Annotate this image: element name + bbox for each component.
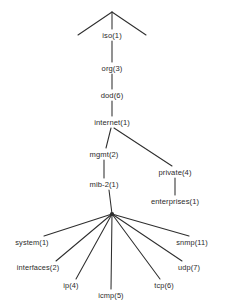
edge-mib2-to-snmp xyxy=(112,214,189,236)
node-label-internet: internet(1) xyxy=(93,118,131,127)
mib-tree-diagram: iso(1) org(3) dod(6) internet(1) mgmt(2)… xyxy=(0,0,225,308)
node-label-org: org(3) xyxy=(101,64,124,73)
top-edge-artifact xyxy=(26,0,37,5)
node-label-system: system(1) xyxy=(14,238,49,247)
fan-hub-dot xyxy=(110,212,114,216)
edge-mib2-to-fan-hub xyxy=(109,190,112,214)
node-label-private: private(4) xyxy=(157,168,192,177)
node-label-enterprises: enterprises(1) xyxy=(150,197,200,206)
node-label-ip: ip(4) xyxy=(62,281,79,290)
edge-mib2-to-tcp xyxy=(112,214,160,279)
node-label-tcp: tcp(6) xyxy=(153,281,175,290)
node-label-icmp: icmp(5) xyxy=(97,291,124,300)
node-label-snmp: snmp(11) xyxy=(175,238,208,247)
node-label-mgmt: mgmt(2) xyxy=(89,150,120,159)
edge-mib2-to-interfaces xyxy=(56,214,112,261)
node-label-interfaces: interfaces(2) xyxy=(16,263,60,272)
node-label-iso: iso(1) xyxy=(101,31,123,40)
node-label-udp: udp(7) xyxy=(177,263,201,272)
edge-mib2-to-icmp xyxy=(111,214,112,289)
edge-internet-to-private xyxy=(114,128,172,166)
edge-mib2-to-udp xyxy=(112,214,182,261)
edge-internet-to-mgmt xyxy=(106,128,111,148)
node-label-dod: dod(6) xyxy=(100,91,125,100)
node-label-mib-2: mib-2(1) xyxy=(88,180,119,189)
